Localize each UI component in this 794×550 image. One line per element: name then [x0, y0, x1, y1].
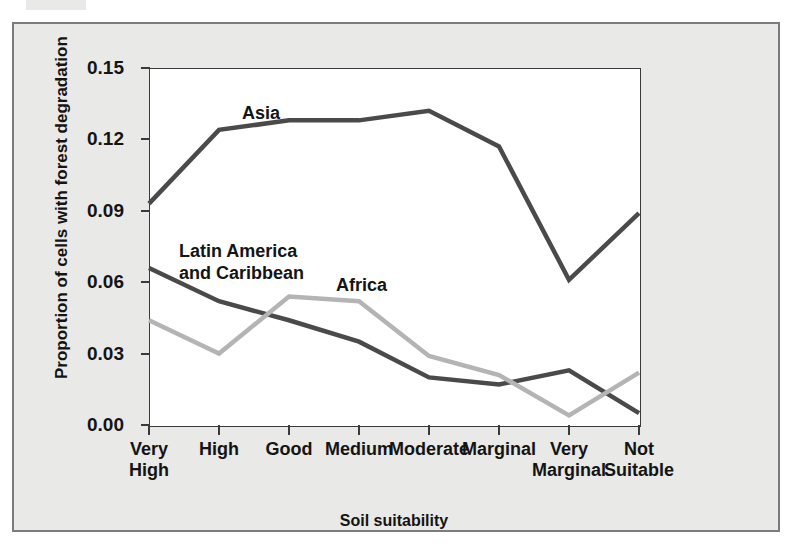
x-axis-tick-label-line: Suitable — [579, 460, 699, 481]
chart-panel: 0.150.120.090.060.030.00 Proportion of c… — [12, 22, 780, 532]
series-label-africa: Africa — [336, 274, 387, 296]
x-axis-tick-mark — [288, 425, 290, 435]
series-label-line: Africa — [336, 274, 387, 296]
x-axis-tick-mark — [218, 425, 220, 435]
x-axis-tick-label-line: High — [89, 460, 209, 481]
x-axis-tick-mark — [638, 425, 640, 435]
x-axis-tick-label: NotSuitable — [579, 439, 699, 481]
x-axis-tick-mark — [568, 425, 570, 435]
x-axis-title: Soil suitability — [149, 512, 639, 530]
y-axis-title: Proportion of cells with forest degradat… — [52, 39, 72, 379]
series-label-line: Asia — [242, 102, 280, 124]
y-axis-tick-label: 0.00 — [58, 415, 124, 434]
series-label-line: Latin America — [179, 240, 304, 262]
series-line-latin-america — [149, 268, 639, 413]
series-label-line: and Caribbean — [179, 262, 304, 284]
series-label-latin-america: Latin Americaand Caribbean — [179, 240, 304, 284]
top-strip-mark — [26, 0, 86, 10]
figure: 0.150.120.090.060.030.00 Proportion of c… — [0, 0, 794, 550]
series-line-africa — [149, 296, 639, 415]
x-axis-tick-mark — [358, 425, 360, 435]
x-axis-tick-mark — [148, 425, 150, 435]
x-axis-tick-label-line: Not — [579, 439, 699, 460]
x-axis-tick-mark — [428, 425, 430, 435]
series-label-asia: Asia — [242, 102, 280, 124]
page-top-strip — [0, 0, 794, 22]
x-axis-tick-mark — [498, 425, 500, 435]
